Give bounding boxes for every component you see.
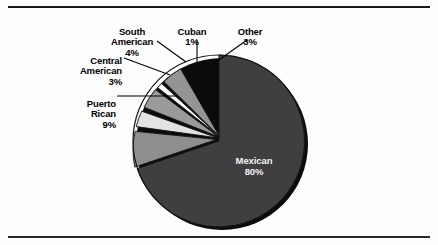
slice-label-mexican: Mexican 80%: [222, 156, 286, 177]
slice-label-cuban-pct: 1%: [170, 37, 214, 48]
slice-label-central-american-pct: 3%: [58, 77, 122, 88]
slice-label-mexican-name: Mexican: [236, 155, 273, 166]
slice-label-mexican-pct: 80%: [222, 167, 286, 178]
chart-page: South American 4% Cuban 1% Other 3% Cent…: [0, 0, 438, 245]
slice-label-south-american-name: South American: [111, 26, 153, 48]
slice-label-cuban-name: Cuban: [178, 26, 207, 37]
slice-label-puerto-rican: Puerto Rican 9%: [52, 88, 116, 141]
slice-label-other-name: Other: [238, 26, 263, 37]
slice-label-cuban: Cuban 1%: [170, 16, 214, 58]
slice-label-central-american-name: Central American: [80, 55, 122, 77]
slice-label-puerto-rican-name: Puerto Rican: [87, 98, 116, 120]
slice-label-puerto-rican-pct: 9%: [52, 120, 116, 131]
slice-label-other-pct: 3%: [228, 37, 272, 48]
slice-label-other: Other 3%: [228, 16, 272, 58]
